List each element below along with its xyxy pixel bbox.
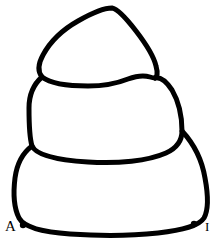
swirl-middle-tier-ridge — [42, 76, 155, 86]
right-annotation-label: I — [205, 220, 209, 233]
right-annotation-dot — [191, 221, 197, 227]
left-annotation-label: A — [5, 219, 16, 234]
swirl-top-tip-outline — [39, 8, 157, 78]
swirl-figure — [0, 0, 224, 250]
figure-canvas: A I — [0, 0, 224, 250]
swirl-middle-tier-outline — [29, 77, 182, 163]
left-annotation-dot — [20, 222, 26, 228]
